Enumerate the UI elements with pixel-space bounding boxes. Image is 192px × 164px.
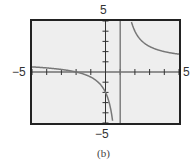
graph-screen bbox=[0, 0, 192, 164]
